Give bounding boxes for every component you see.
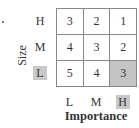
matrix-cell: 2 (109, 34, 137, 61)
x-axis-label: Importance (56, 109, 136, 124)
bullet-dot (2, 21, 4, 23)
matrix-cell: 3 (83, 34, 111, 61)
matrix-cell: 3 (56, 8, 84, 35)
matrix-cell: 1 (109, 8, 137, 35)
y-axis-label: Size (15, 43, 30, 69)
matrix-cell: 4 (83, 60, 111, 87)
matrix-cell: 2 (83, 8, 111, 35)
matrix-cell: 3 (109, 60, 137, 87)
column-label: M (89, 95, 103, 109)
row-label: H (33, 14, 47, 28)
column-label: L (62, 95, 76, 109)
matrix-grid: 321432543 (56, 8, 136, 86)
matrix-cell: 5 (56, 60, 84, 87)
row-label: L (33, 66, 47, 80)
matrix-cell: 4 (56, 34, 84, 61)
column-label: H (116, 95, 130, 109)
row-label: M (33, 40, 47, 54)
